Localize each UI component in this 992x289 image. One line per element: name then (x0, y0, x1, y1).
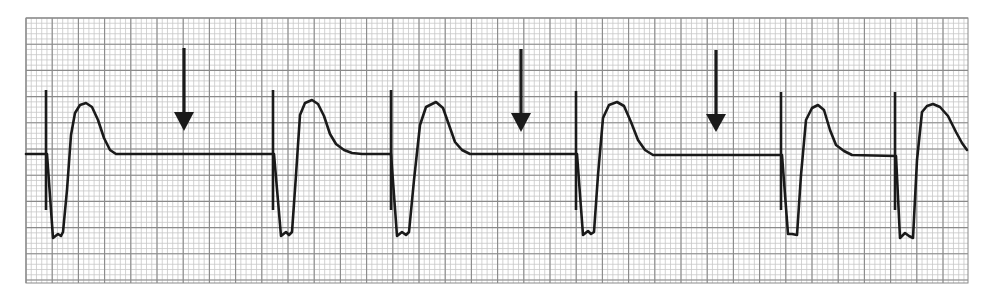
ecg-strip-figure: ECG rhythm strip on grid paper: six wide… (0, 0, 992, 289)
ecg-rhythm-strip (0, 0, 992, 289)
